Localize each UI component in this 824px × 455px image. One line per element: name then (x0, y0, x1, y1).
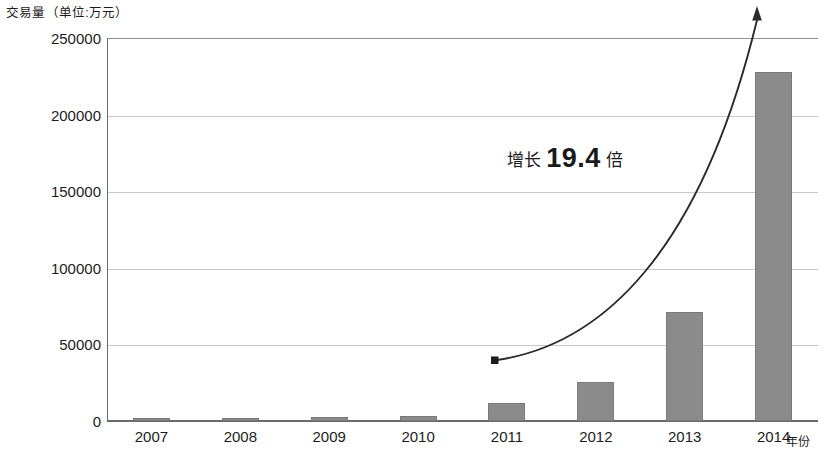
y-axis-tick-label: 0 (5, 413, 101, 430)
bars-layer (107, 38, 818, 421)
y-axis-tick-label: 200000 (5, 106, 101, 123)
x-axis-tick-label: 2008 (224, 428, 257, 445)
bar-2009 (311, 417, 348, 421)
x-axis-tick-label: 2013 (668, 428, 701, 445)
x-axis-tick-label: 2009 (313, 428, 346, 445)
bar-2010 (400, 416, 437, 422)
growth-callout-prefix: 增长 (507, 151, 541, 170)
x-axis-ticks: 20072008200920102011201220132014 (107, 428, 818, 454)
x-axis-tick-label: 2012 (579, 428, 612, 445)
y-axis-tick-label: 100000 (5, 259, 101, 276)
bar-2014 (755, 72, 792, 421)
bar-2007 (133, 418, 170, 421)
growth-callout-suffix: 倍 (606, 151, 623, 170)
y-axis-tick-label: 50000 (5, 336, 101, 353)
x-axis-tick-label: 2007 (135, 428, 168, 445)
y-axis-tick-label: 250000 (5, 30, 101, 47)
x-axis-tick-label: 2010 (401, 428, 434, 445)
growth-callout-value: 19.4 (546, 143, 601, 173)
growth-arrow-head (752, 6, 762, 21)
x-axis-tick-label: 2011 (491, 428, 523, 445)
y-axis-tick-label: 150000 (5, 183, 101, 200)
x-axis-name-label: 年份 (786, 432, 810, 449)
bar-2011 (488, 403, 525, 421)
growth-callout: 增长 19.4 倍 (507, 145, 623, 172)
bar-chart: 交易量（单位:万元） 05000010000015000020000025000… (0, 0, 824, 455)
bar-2008 (222, 418, 259, 421)
bar-2012 (577, 382, 614, 421)
y-axis-ticks: 050000100000150000200000250000 (0, 0, 101, 455)
bar-2013 (666, 312, 703, 421)
